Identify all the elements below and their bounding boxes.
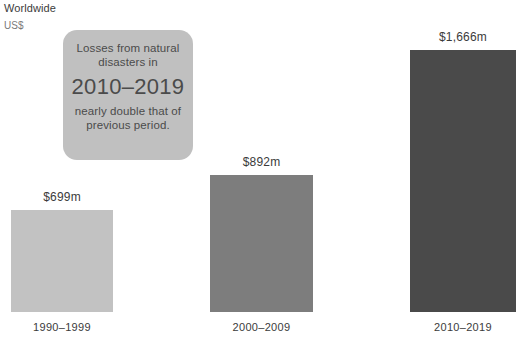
bar-1990-1999[interactable] — [11, 210, 113, 312]
bar-group-1990-1999[interactable]: $699m 1990–1999 — [11, 210, 113, 312]
natural-disaster-losses-chart: Worldwide US$ $699m 1990–1999 $892m 2000… — [0, 0, 516, 344]
callout-line-2: disasters in — [71, 55, 185, 69]
bar-2000-2009[interactable] — [210, 175, 313, 312]
callout-line-3: nearly double that of — [71, 104, 185, 118]
bar-group-2010-2019[interactable]: $1,666m 2010–2019 — [410, 50, 516, 312]
bar-value-label-2010-2019: $1,666m — [410, 30, 516, 44]
bar-2010-2019[interactable] — [410, 50, 516, 312]
callout-line-4: previous period. — [71, 118, 185, 132]
callout-emphasis-period: 2010–2019 — [71, 73, 185, 101]
category-label-2010-2019: 2010–2019 — [410, 321, 516, 333]
bar-value-label-2000-2009: $892m — [210, 155, 313, 169]
bar-value-label-1990-1999: $699m — [11, 190, 113, 204]
bar-group-2000-2009[interactable]: $892m 2000–2009 — [210, 175, 313, 312]
category-label-2000-2009: 2000–2009 — [210, 321, 313, 333]
callout-line-1: Losses from natural — [71, 41, 185, 55]
callout-annotation: Losses from natural disasters in 2010–20… — [63, 30, 193, 160]
category-label-1990-1999: 1990–1999 — [11, 321, 113, 333]
